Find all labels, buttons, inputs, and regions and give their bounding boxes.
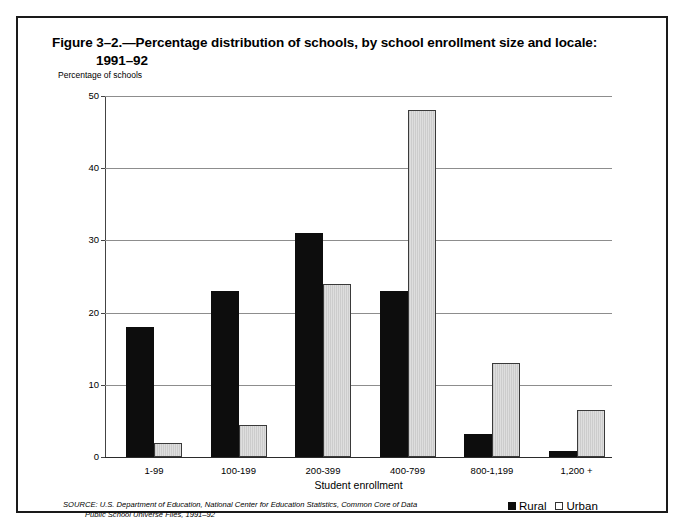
legend-label-urban: Urban [566,500,597,512]
y-axis-caption-label: Percentage of schools [58,70,142,80]
figure-title-line1: Figure 3–2.—Percentage distribution of s… [52,35,597,50]
x-axis-tick-label: 800-1,199 [471,465,514,476]
legend-swatch-rural-icon [508,502,516,510]
y-axis-tick-label: 50 [88,91,99,101]
bar-urban-400-799 [408,110,436,457]
bar-group [528,96,613,457]
legend-label-rural: Rural [519,500,546,512]
bars-layer [105,96,612,457]
figure-title: Figure 3–2.—Percentage distribution of s… [52,34,652,70]
source-note-line1: SOURCE: U.S. Department of Education, Na… [63,500,417,509]
legend-item-urban: Urban [555,500,597,512]
x-axis-caption-label: Student enrollment [105,479,612,491]
source-note: SOURCE: U.S. Department of Education, Na… [63,500,463,520]
bar-group [105,96,190,457]
bar-group [274,96,359,457]
bar-rural-1-200- [549,451,577,457]
bar-group [359,96,444,457]
y-axis-tick-label: 0 [94,452,99,462]
x-axis-tick-labels: 1-99100-199200-399400-799800-1,1991,200 … [105,465,612,479]
y-axis-tick-label: 10 [88,380,99,390]
bar-rural-1-99 [126,327,154,457]
bar-urban-100-199 [239,425,267,457]
x-axis-tick-label: 200-399 [306,465,341,476]
bar-urban-1-99 [154,443,182,457]
figure-title-line2: 1991–92 [96,52,652,70]
bar-urban-200-399 [323,284,351,457]
figure-frame: Figure 3–2.—Percentage distribution of s… [16,16,668,513]
x-axis-tick-label: 1,200 + [561,465,593,476]
x-axis-tick-label: 400-799 [390,465,425,476]
source-note-line2: Public School Universe Files, 1991–92 [85,510,463,520]
bar-rural-100-199 [211,291,239,457]
legend-item-rural: Rural [508,500,546,512]
x-axis-tick-label: 100-199 [221,465,256,476]
plot-area: 01020304050 [105,96,612,457]
bar-urban-1-200- [577,410,605,457]
bar-group [443,96,528,457]
bar-group [190,96,275,457]
chart-legend: Rural Urban [508,500,598,512]
bar-rural-200-399 [295,233,323,457]
bar-urban-800-1-199 [492,363,520,457]
legend-swatch-urban-icon [555,502,563,510]
y-axis-tick-label: 20 [88,308,99,318]
x-axis-tick-label: 1-99 [144,465,163,476]
y-axis-tick-label: 40 [88,163,99,173]
bar-rural-400-799 [380,291,408,457]
y-axis-tick-mark [101,457,105,458]
y-axis-tick-label: 30 [88,236,99,246]
bar-rural-800-1-199 [464,434,492,457]
